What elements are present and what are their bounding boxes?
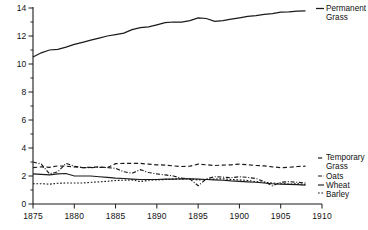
x-axis-tick-label: 1875 [23,211,43,221]
chart-figure: 02468101214 1875188018851890189519001905… [0,0,368,230]
legend-label-permanent-grass-line2: Grass [326,13,348,22]
legend-label-barley: Barley [326,190,350,199]
x-axis-tick-label: 1905 [271,211,291,221]
x-axis-tick-label: 1895 [188,211,208,221]
x-axis-tick-label: 1885 [106,211,126,221]
y-axis-tick-label: 10 [17,59,27,69]
y-axis-tick-label: 6 [22,115,27,125]
x-axis-tick-label: 1890 [147,211,167,221]
x-axis-tick-label: 1900 [230,211,250,221]
line-chart: 02468101214 1875188018851890189519001905… [0,0,368,230]
x-axis-tick-label: 1910 [312,211,332,221]
y-axis-tick-label: 12 [17,31,27,41]
y-axis-tick-label: 4 [22,143,27,153]
legend-label-permanent-grass-line1: Permanent [326,4,367,13]
chart-background [0,0,368,230]
x-axis-tick-label: 1880 [64,211,84,221]
y-axis-tick-label: 14 [17,3,27,13]
y-axis-tick-label: 8 [22,87,27,97]
legend-label-temporary-grass-line2: Grass [326,162,348,171]
legend-label-oats: Oats [326,172,343,181]
y-axis-tick-label: 2 [22,171,27,181]
y-axis-tick-label: 0 [22,199,27,209]
legend-label-wheat: Wheat [326,181,350,190]
legend-label-temporary-grass-line1: Temporary [326,153,366,162]
